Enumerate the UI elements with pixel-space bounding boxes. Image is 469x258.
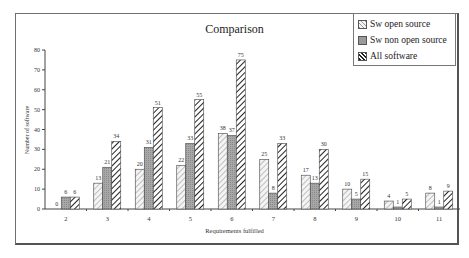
svg-text:9: 9 — [447, 183, 450, 189]
svg-text:15: 15 — [362, 171, 368, 177]
svg-text:4: 4 — [147, 215, 151, 222]
svg-text:80: 80 — [34, 47, 40, 53]
svg-text:20: 20 — [34, 166, 40, 172]
svg-text:22: 22 — [178, 157, 184, 163]
svg-text:37: 37 — [229, 127, 235, 133]
svg-text:30: 30 — [34, 146, 40, 152]
svg-text:51: 51 — [155, 100, 161, 106]
svg-text:6: 6 — [73, 189, 76, 195]
svg-text:20: 20 — [137, 161, 143, 167]
svg-text:13: 13 — [312, 175, 318, 181]
svg-text:10: 10 — [344, 181, 350, 187]
legend: Sw open source Sw non open source All so… — [353, 13, 456, 66]
svg-text:6: 6 — [64, 189, 67, 195]
bars: 0661321342031512233553837752583317133010… — [55, 52, 453, 209]
svg-text:34: 34 — [113, 133, 119, 139]
svg-text:8: 8 — [429, 185, 432, 191]
svg-text:8: 8 — [272, 185, 275, 191]
svg-text:5: 5 — [405, 191, 408, 197]
svg-text:0: 0 — [55, 201, 58, 207]
svg-text:13: 13 — [95, 175, 101, 181]
svg-text:33: 33 — [187, 135, 193, 141]
svg-text:7: 7 — [272, 215, 276, 222]
svg-text:2: 2 — [64, 215, 67, 222]
svg-text:10: 10 — [34, 186, 40, 192]
svg-text:0: 0 — [37, 206, 40, 212]
svg-text:3: 3 — [106, 215, 109, 222]
svg-text:8: 8 — [313, 215, 316, 222]
svg-text:6: 6 — [230, 215, 234, 222]
svg-text:60: 60 — [34, 87, 40, 93]
svg-text:30: 30 — [321, 141, 327, 147]
svg-text:17: 17 — [303, 167, 309, 173]
svg-text:9: 9 — [355, 215, 358, 222]
svg-text:10: 10 — [395, 215, 402, 222]
svg-text:21: 21 — [104, 159, 110, 165]
open-source-swatch-icon — [358, 20, 367, 29]
legend-item-all-software: All software — [358, 49, 417, 63]
svg-text:4: 4 — [387, 193, 390, 199]
svg-text:25: 25 — [261, 151, 267, 157]
svg-text:5: 5 — [355, 191, 358, 197]
svg-text:5: 5 — [189, 215, 192, 222]
legend-item-non-open-source: Sw non open source — [358, 33, 447, 47]
non-open-source-swatch-icon — [358, 36, 367, 45]
svg-text:55: 55 — [196, 92, 202, 98]
legend-item-open-source: Sw open source — [358, 17, 430, 31]
svg-text:1: 1 — [396, 199, 399, 205]
svg-text:38: 38 — [220, 125, 226, 131]
svg-text:31: 31 — [146, 139, 152, 145]
svg-text:11: 11 — [436, 215, 442, 222]
all-software-swatch-icon — [358, 52, 367, 61]
svg-text:50: 50 — [34, 107, 40, 113]
svg-text:40: 40 — [34, 127, 40, 133]
svg-text:70: 70 — [34, 67, 40, 73]
svg-text:1: 1 — [438, 199, 441, 205]
svg-text:75: 75 — [238, 52, 244, 58]
svg-text:33: 33 — [279, 135, 285, 141]
